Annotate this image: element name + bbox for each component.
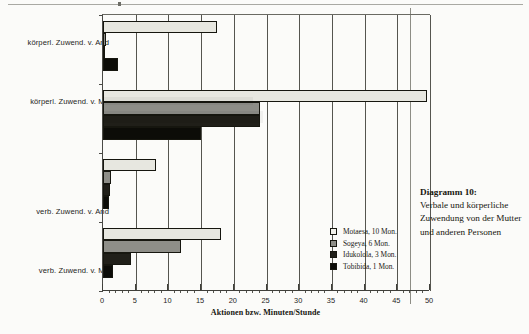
x-tick-minor-39 <box>357 291 358 293</box>
category-label-verb-andere: verb. Zuwend. v. And <box>36 207 109 216</box>
band-tick <box>99 15 103 16</box>
x-tick-minor-2 <box>115 291 116 293</box>
x-tick-label-20: 20 <box>229 296 237 305</box>
bar-1-0 <box>103 90 427 103</box>
caption-title: Diagramm 10: <box>420 186 524 199</box>
category-label-verb-mutter: verb. Zuwend. v. Mu <box>39 266 109 275</box>
x-tick-label-0: 0 <box>100 296 104 305</box>
legend-swatch-icon-0 <box>330 228 337 235</box>
x-tick-minor-17 <box>213 291 214 293</box>
bar-3-0 <box>103 228 221 241</box>
x-tick-minor-32 <box>311 291 312 293</box>
legend-label-0: Motaesa, 10 Mon. <box>343 227 397 236</box>
bar-2-1 <box>103 171 111 184</box>
gridline-20 <box>234 15 235 291</box>
x-tick-minor-33 <box>318 291 319 293</box>
band-tick <box>99 153 103 154</box>
x-tick-label-5: 5 <box>133 296 137 305</box>
bar-2-3 <box>103 196 109 209</box>
x-tick-major-45 <box>396 284 397 290</box>
x-tick-minor-37 <box>344 291 345 293</box>
x-tick-minor-13 <box>187 291 188 293</box>
x-tick-minor-12 <box>180 291 181 293</box>
x-tick-minor-22 <box>246 291 247 293</box>
x-tick-minor-8 <box>154 291 155 293</box>
figure-caption: Diagramm 10: Verbale und körperliche Zuw… <box>420 186 524 239</box>
bar-2-0 <box>103 159 156 172</box>
x-tick-major-0 <box>102 284 103 290</box>
bar-0-2 <box>103 46 105 59</box>
x-tick-major-50 <box>429 284 430 290</box>
legend-label-2: Idukolola, 3 Mon. <box>343 250 396 259</box>
legend-item-2: Idukolola, 3 Mon. <box>330 249 408 261</box>
x-tick-label-30: 30 <box>294 296 302 305</box>
legend-swatch-icon-2 <box>330 251 337 258</box>
x-tick-minor-34 <box>324 291 325 293</box>
x-tick-major-20 <box>233 284 234 290</box>
bar-3-3 <box>103 265 113 278</box>
x-tick-minor-27 <box>279 291 280 293</box>
x-tick-label-45: 45 <box>392 296 400 305</box>
legend-swatch-icon-3 <box>330 263 337 270</box>
caption-body: Verbale und körperliche Zuwendung von de… <box>420 199 524 239</box>
x-tick-major-30 <box>298 284 299 290</box>
legend-item-3: Tobibida, 1 Mon. <box>330 261 408 273</box>
x-tick-major-5 <box>135 284 136 290</box>
x-tick-minor-47 <box>409 291 410 293</box>
x-tick-minor-26 <box>272 291 273 293</box>
x-tick-label-35: 35 <box>327 296 335 305</box>
x-tick-label-25: 25 <box>261 296 269 305</box>
bar-1-3 <box>103 127 201 140</box>
bar-3-1 <box>103 240 181 253</box>
x-tick-minor-3 <box>122 291 123 293</box>
x-tick-minor-4 <box>128 291 129 293</box>
gridline-50 <box>430 15 431 291</box>
legend-item-0: Motaesa, 10 Mon. <box>330 226 408 238</box>
legend: Motaesa, 10 Mon.Sogeya, 6 Mon.Idukolola,… <box>330 226 408 272</box>
x-tick-label-10: 10 <box>163 296 171 305</box>
bar-1-1 <box>103 102 260 115</box>
x-tick-minor-24 <box>259 291 260 293</box>
legend-swatch-icon-1 <box>330 240 337 247</box>
x-tick-minor-11 <box>174 291 175 293</box>
x-axis-title: Aktionen bzw. Minuten/Stunde <box>102 308 429 317</box>
x-tick-label-50: 50 <box>425 296 433 305</box>
x-tick-major-35 <box>331 284 332 290</box>
x-tick-minor-43 <box>383 291 384 293</box>
diagram-figure: körperl. Zuwend. v. And körperl. Zuwend.… <box>0 0 529 334</box>
legend-item-1: Sogeya, 6 Mon. <box>330 238 408 250</box>
x-tick-minor-28 <box>285 291 286 293</box>
legend-label-1: Sogeya, 6 Mon. <box>343 239 390 248</box>
x-tick-minor-46 <box>403 291 404 293</box>
x-tick-minor-21 <box>239 291 240 293</box>
legend-label-3: Tobibida, 1 Mon. <box>343 262 394 271</box>
category-label-koerperl-andere: körperl. Zuwend. v. And <box>27 38 109 47</box>
bar-1-2 <box>103 115 260 128</box>
band-tick <box>99 222 103 223</box>
bar-2-2 <box>103 184 110 197</box>
x-tick-major-15 <box>200 284 201 290</box>
gridline-30 <box>299 15 300 291</box>
x-tick-minor-6 <box>141 291 142 293</box>
x-tick-minor-38 <box>351 291 352 293</box>
x-tick-major-40 <box>364 284 365 290</box>
x-tick-major-10 <box>167 284 168 290</box>
x-tick-minor-29 <box>292 291 293 293</box>
x-tick-major-25 <box>266 284 267 290</box>
x-tick-minor-36 <box>337 291 338 293</box>
x-tick-minor-9 <box>161 291 162 293</box>
x-tick-minor-41 <box>370 291 371 293</box>
x-tick-minor-44 <box>390 291 391 293</box>
x-axis <box>102 290 429 291</box>
x-tick-minor-1 <box>109 291 110 293</box>
x-tick-minor-48 <box>416 291 417 293</box>
bar-3-2 <box>103 253 131 266</box>
gridline-15 <box>201 15 202 291</box>
x-tick-minor-16 <box>207 291 208 293</box>
x-tick-minor-19 <box>226 291 227 293</box>
x-tick-minor-18 <box>220 291 221 293</box>
x-tick-label-40: 40 <box>359 296 367 305</box>
bar-0-1 <box>103 33 106 46</box>
x-tick-label-15: 15 <box>196 296 204 305</box>
x-tick-minor-49 <box>422 291 423 293</box>
